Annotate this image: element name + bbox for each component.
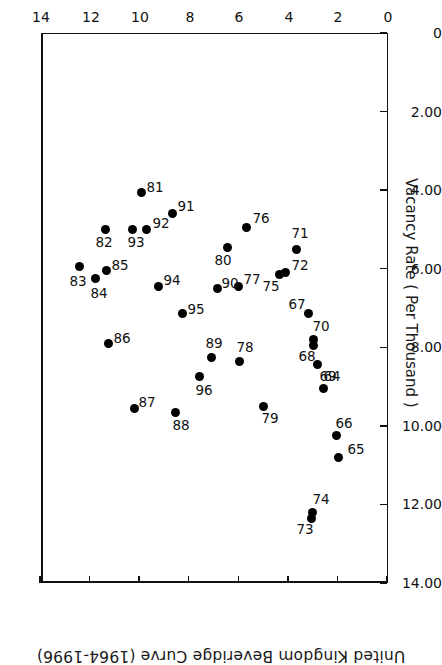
data-point-label: 70 (312, 320, 330, 334)
y-tick (380, 582, 387, 583)
data-point-label: 94 (163, 274, 181, 288)
x-tick (188, 576, 189, 583)
data-point-label: 96 (195, 383, 213, 397)
data-point-label: 69 (319, 369, 337, 383)
data-point-label: 90 (221, 277, 239, 291)
y-tick-label: 12.00 (394, 496, 442, 512)
data-point (137, 188, 146, 197)
data-point-label: 66 (335, 416, 353, 430)
data-point-label: 83 (69, 274, 87, 288)
data-point (91, 274, 100, 283)
axis-spine-right (41, 33, 43, 583)
y-tick (380, 111, 387, 112)
x-tick-label: 14 (27, 9, 55, 25)
chart-title: United Kingdom Beveridge Curve (1964-199… (0, 647, 442, 665)
x-tick-label: 10 (126, 9, 154, 25)
data-point-label: 67 (288, 297, 306, 311)
y-tick-label: 2.00 (394, 104, 442, 120)
data-point (242, 223, 251, 232)
data-point-label: 77 (243, 273, 261, 287)
y-axis-label: Vacancy Rate ( Per Thousand ) (402, 178, 420, 179)
data-point-label: 82 (95, 236, 113, 250)
x-tick (39, 576, 40, 583)
y-tick-label: 14.00 (394, 575, 442, 591)
data-point (104, 339, 113, 348)
data-point (292, 245, 301, 254)
data-point-label: 71 (291, 227, 309, 241)
y-tick-label: 10.00 (394, 418, 442, 434)
data-point (319, 384, 328, 393)
data-point-label: 86 (113, 332, 131, 346)
x-tick (89, 576, 90, 583)
data-point (334, 453, 343, 462)
x-tick (287, 576, 288, 583)
x-tick-label: 6 (225, 9, 253, 25)
x-tick-label: 8 (176, 9, 204, 25)
data-point-label: 79 (261, 412, 279, 426)
data-point-label: 88 (172, 419, 190, 433)
y-tick (380, 32, 387, 33)
data-point-label: 89 (205, 337, 223, 351)
data-point-label: 91 (177, 199, 195, 213)
data-point-label: 92 (152, 217, 170, 231)
x-tick-label: 2 (324, 9, 352, 25)
data-point-label: 76 (252, 212, 270, 226)
x-tick (337, 576, 338, 583)
beveridge-curve-chart: United Kingdom Beveridge Curve (1964-199… (0, 0, 442, 665)
data-point-label: 73 (296, 523, 314, 537)
data-point-label: 93 (127, 236, 145, 250)
plot-area: 6465666768697071727374757677787980818283… (41, 33, 388, 583)
y-tick (380, 268, 387, 269)
data-point-label: 72 (291, 258, 309, 272)
data-point (171, 408, 180, 417)
data-point (75, 262, 84, 271)
data-point (235, 357, 244, 366)
y-tick (380, 189, 387, 190)
data-point-label: 65 (347, 443, 365, 457)
y-tick (380, 347, 387, 348)
x-tick (138, 576, 139, 583)
axis-spine-top (40, 581, 387, 583)
x-tick-label: 4 (275, 9, 303, 25)
data-point-label: 78 (236, 341, 254, 355)
data-point-label: 85 (111, 258, 129, 272)
data-point-label: 95 (187, 302, 205, 316)
data-point-label: 80 (214, 254, 232, 268)
data-point-label: 74 (312, 493, 330, 507)
y-tick-label: 0 (394, 25, 442, 41)
data-point (178, 309, 187, 318)
data-point-label: 84 (90, 286, 108, 300)
x-tick-label: 0 (374, 9, 402, 25)
y-tick (380, 504, 387, 505)
figure-rotator: United Kingdom Beveridge Curve (1964-199… (0, 0, 442, 665)
data-point (223, 243, 232, 252)
y-tick (380, 425, 387, 426)
data-point (195, 372, 204, 381)
data-point (308, 508, 317, 517)
data-point (207, 353, 216, 362)
x-tick (238, 576, 239, 583)
x-axis-label: Unemployment Rate (0, 0, 442, 1)
x-tick-label: 12 (77, 9, 105, 25)
data-point-label: 81 (146, 181, 164, 195)
data-point-label: 75 (262, 279, 280, 293)
data-point (332, 431, 341, 440)
data-point-label: 87 (138, 396, 156, 410)
